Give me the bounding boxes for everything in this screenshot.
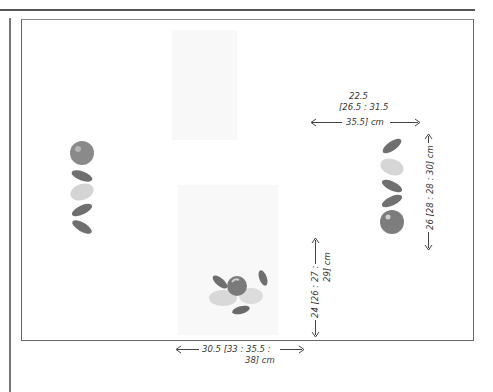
leaf-icon bbox=[70, 218, 94, 237]
arrowhead-up-icon bbox=[311, 237, 320, 245]
leaf-icon bbox=[257, 269, 270, 287]
page-top-rule bbox=[0, 9, 475, 11]
leaf-icon bbox=[70, 168, 94, 184]
leaf-icon bbox=[231, 304, 250, 316]
leaf-icon bbox=[211, 273, 230, 291]
pale-leaf-icon bbox=[68, 180, 96, 203]
bottom-dim-line1: 30.5 [33 : 35.5 : bbox=[202, 344, 271, 354]
center-vertical-dim-line2: 29] cm bbox=[322, 252, 332, 282]
arrowhead-down-icon bbox=[311, 330, 320, 338]
top-right-dim-line2: [26.5 : 31.5 bbox=[339, 102, 388, 112]
apple-icon bbox=[380, 210, 404, 234]
apple-icon bbox=[227, 276, 247, 296]
arrowhead-left-icon bbox=[175, 345, 183, 354]
leaf-icon bbox=[380, 136, 403, 156]
right-motif-column bbox=[372, 134, 412, 244]
pale-leaf-icon bbox=[378, 155, 406, 178]
left-motif-column bbox=[62, 135, 102, 245]
top-right-dim-line1: 22.5 bbox=[349, 91, 368, 101]
bottom-motif-cluster bbox=[205, 268, 275, 318]
page-left-rule bbox=[9, 18, 11, 392]
center-vertical-dim-line1: 24 [26 : 27 : bbox=[310, 264, 320, 320]
right-vertical-dim-text: 26 [28 : 28 : 30] cm bbox=[425, 143, 435, 232]
leaf-icon bbox=[70, 201, 94, 218]
arrowhead-down-icon bbox=[424, 243, 433, 251]
arrowhead-right-icon bbox=[413, 118, 421, 127]
arrowhead-left-icon bbox=[310, 118, 318, 127]
apple-icon bbox=[70, 141, 94, 165]
leaf-icon bbox=[380, 192, 404, 209]
leaf-icon bbox=[380, 177, 404, 194]
bleed-through-top bbox=[172, 30, 237, 140]
arrowhead-up-icon bbox=[424, 133, 433, 141]
bottom-dim-line2: 38] cm bbox=[245, 355, 275, 365]
top-right-dim-line3: 35.5] cm bbox=[346, 117, 384, 127]
arrowhead-right-icon bbox=[297, 345, 305, 354]
